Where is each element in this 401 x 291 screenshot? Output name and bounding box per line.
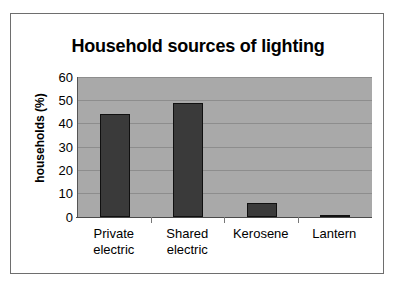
x-axis-tick-labels: PrivateelectricSharedelectricKeroseneLan… bbox=[77, 226, 371, 270]
y-axis-tick-label: 60 bbox=[41, 71, 73, 84]
gridline bbox=[78, 77, 372, 78]
x-axis-tick-label: Kerosene bbox=[224, 226, 298, 242]
x-axis-category-tick bbox=[298, 217, 299, 223]
chart-frame: Household sources of lighting households… bbox=[10, 13, 384, 274]
gridline bbox=[78, 100, 372, 101]
y-axis-tick-label: 0 bbox=[41, 211, 73, 224]
chart-title: Household sources of lighting bbox=[11, 36, 385, 57]
y-axis-tick-labels: 0102030405060 bbox=[41, 77, 73, 217]
x-axis-tick-label: Lantern bbox=[298, 226, 372, 242]
x-axis-category-tick bbox=[151, 217, 152, 223]
y-axis-tick-label: 20 bbox=[41, 164, 73, 177]
x-axis-tick-label-line: Private bbox=[77, 226, 151, 242]
x-axis-tick-label-line: electric bbox=[151, 242, 225, 258]
x-axis-tick-label-line: Lantern bbox=[298, 226, 372, 242]
x-axis-tick-label: Sharedelectric bbox=[151, 226, 225, 258]
plot-area bbox=[77, 77, 372, 217]
y-axis-tick-label: 50 bbox=[41, 94, 73, 107]
x-axis-tick-label-line: Shared bbox=[151, 226, 225, 242]
x-axis-tick-label-line: Kerosene bbox=[224, 226, 298, 242]
y-axis-tick-label: 30 bbox=[41, 141, 73, 154]
x-axis-tick-label-line: electric bbox=[77, 242, 151, 258]
bar bbox=[100, 114, 130, 217]
bar bbox=[173, 103, 203, 217]
y-axis-tick-label: 40 bbox=[41, 117, 73, 130]
bar bbox=[247, 203, 277, 217]
y-axis-tick-label: 10 bbox=[41, 187, 73, 200]
chart-figure: Household sources of lighting households… bbox=[0, 0, 401, 291]
x-axis-category-tick bbox=[224, 217, 225, 223]
x-axis-tick-label: Privateelectric bbox=[77, 226, 151, 258]
